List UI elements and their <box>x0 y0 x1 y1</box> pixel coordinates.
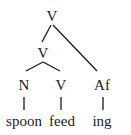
node-v: V <box>56 78 67 93</box>
branch-inner-n <box>26 62 43 71</box>
node-inner: V <box>38 46 49 61</box>
branch-inner-v <box>43 62 60 71</box>
node-af: Af <box>94 78 110 93</box>
branch-root-af <box>53 25 97 71</box>
node-n: N <box>19 78 30 93</box>
word-ing: ing <box>92 114 111 129</box>
word-feed: feed <box>49 114 75 129</box>
branch-root-inner <box>42 25 51 42</box>
word-spoon: spoon <box>6 114 42 129</box>
node-root: V <box>47 9 58 24</box>
